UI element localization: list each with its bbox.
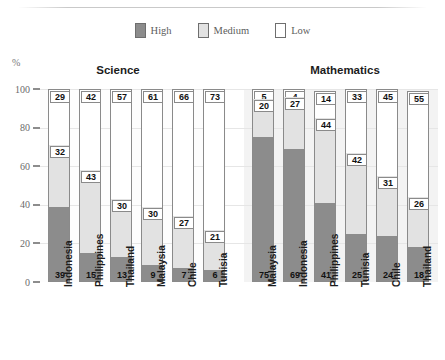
segment-low[interactable]: 14 [314, 91, 336, 118]
y-tick-mark [33, 204, 40, 206]
category-label-text: Chile [391, 263, 402, 287]
legend-swatch-medium-icon [198, 23, 209, 38]
value-label-low: 55 [409, 93, 429, 105]
y-tick-0: 0 [0, 276, 40, 288]
segment-medium[interactable]: 44 [314, 118, 336, 203]
category-label-text: Tunisia [360, 253, 371, 287]
y-axis: 100806040200 [0, 89, 40, 282]
value-label-medium: 27 [174, 217, 194, 229]
y-tick-100: 100 [0, 83, 40, 95]
segment-low[interactable]: 42 [79, 89, 101, 170]
category-label-mathematics-indonesia: Indonesia [287, 287, 301, 357]
category-label-mathematics-tunisia: Tunisia [349, 287, 363, 357]
segment-low[interactable]: 5 [252, 89, 274, 99]
category-label-text: Indonesia [298, 240, 309, 287]
category-label-text: Tunisia [218, 253, 229, 287]
category-label-science-malaysia: Malaysia [145, 287, 159, 357]
legend-label: Medium [214, 25, 250, 36]
y-tick-40: 40 [0, 199, 40, 211]
y-tick-label: 60 [20, 161, 30, 172]
value-label-low: 42 [81, 91, 101, 103]
legend-item-high: High [135, 23, 172, 38]
value-label-medium: 44 [316, 119, 336, 131]
section-title-science: Science [58, 64, 178, 76]
category-label-text: Indonesia [63, 240, 74, 287]
value-label-low: 33 [347, 91, 367, 103]
category-label-science-indonesia: Indonesia [52, 287, 66, 357]
value-label-medium: 26 [409, 198, 429, 210]
legend-swatch-low-icon [275, 23, 286, 38]
value-label-low: 57 [112, 91, 132, 103]
y-tick-80: 80 [0, 122, 40, 134]
bar-mathematics-chile[interactable]: 453124 [376, 89, 398, 282]
legend-item-medium: Medium [198, 23, 250, 38]
value-label-medium: 42 [347, 154, 367, 166]
y-tick-mark [33, 242, 40, 244]
value-label-low: 29 [50, 91, 70, 103]
legend-label: High [151, 25, 172, 36]
category-label-science-philippines: Philippines [83, 287, 97, 357]
value-label-low: 45 [378, 91, 398, 103]
segment-medium[interactable]: 20 [252, 99, 274, 138]
value-label-medium: 30 [143, 208, 163, 220]
y-tick-mark [33, 165, 40, 167]
value-label-medium: 31 [378, 177, 398, 189]
value-label-medium: 21 [205, 231, 225, 243]
category-label-text: Thailand [422, 246, 433, 287]
category-label-mathematics-malaysia: Malaysia [256, 287, 270, 357]
y-tick-label: 0 [25, 277, 30, 288]
segment-medium[interactable]: 27 [283, 97, 305, 149]
value-label-low: 61 [143, 91, 163, 103]
category-label-mathematics-chile: Chile [380, 287, 394, 357]
y-tick-20: 20 [0, 237, 40, 249]
segment-medium[interactable]: 26 [407, 197, 429, 247]
chart-legend: HighMediumLow [0, 20, 445, 40]
value-label-medium: 27 [285, 98, 305, 110]
category-label-text: Philippines [329, 234, 340, 287]
category-label-text: Malaysia [267, 245, 278, 287]
category-label-science-tunisia: Tunisia [207, 287, 221, 357]
y-tick-label: 100 [15, 84, 30, 95]
category-label-science-thailand: Thailand [114, 287, 128, 357]
segment-medium[interactable]: 42 [345, 153, 367, 234]
value-label-medium: 20 [254, 100, 274, 112]
segment-medium[interactable]: 32 [48, 145, 70, 207]
category-label-text: Chile [187, 263, 198, 287]
value-label-medium: 43 [81, 171, 101, 183]
segment-low[interactable]: 33 [345, 89, 367, 153]
value-label-low: 73 [205, 91, 225, 103]
legend-item-low: Low [275, 23, 310, 38]
y-tick-mark [33, 127, 40, 129]
legend-swatch-high-icon [135, 23, 146, 38]
segment-low[interactable]: 57 [110, 89, 132, 199]
category-label-mathematics-philippines: Philippines [318, 287, 332, 357]
chart-root: HighMediumLow % Science Mathematics 1008… [0, 0, 445, 360]
category-label-mathematics-thailand: Thailand [411, 287, 425, 357]
value-label-medium: 30 [112, 200, 132, 212]
y-tick-label: 80 [20, 122, 30, 133]
y-tick-label: 40 [20, 199, 30, 210]
segment-low[interactable]: 73 [203, 89, 225, 230]
bar-science-chile[interactable]: 66277 [172, 89, 194, 282]
category-label-text: Philippines [94, 234, 105, 287]
value-label-low: 14 [316, 93, 336, 105]
segment-low[interactable]: 29 [48, 89, 70, 145]
value-label-low: 66 [174, 91, 194, 103]
y-tick-mark [33, 281, 40, 283]
segment-low[interactable]: 66 [172, 89, 194, 216]
legend-label: Low [291, 25, 310, 36]
segment-low[interactable]: 45 [376, 89, 398, 176]
segment-medium[interactable]: 31 [376, 176, 398, 236]
category-label-text: Malaysia [156, 245, 167, 287]
segment-low[interactable]: 61 [141, 89, 163, 207]
y-axis-unit-label: % [12, 57, 20, 68]
category-label-text: Thailand [125, 246, 136, 287]
category-label-science-chile: Chile [176, 287, 190, 357]
segment-low[interactable]: 4 [283, 89, 305, 97]
y-tick-mark [33, 88, 40, 90]
segment-medium[interactable]: 27 [172, 216, 194, 268]
section-title-mathematics: Mathematics [285, 64, 405, 76]
segment-low[interactable]: 55 [407, 91, 429, 197]
value-label-medium: 32 [50, 146, 70, 158]
top-divider [18, 7, 427, 8]
